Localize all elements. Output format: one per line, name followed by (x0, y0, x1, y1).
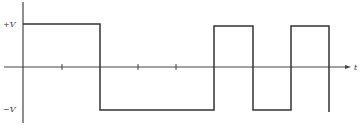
time-axis-arrow-icon (345, 65, 351, 69)
positive-level-label: +V (3, 20, 17, 29)
time-axis-label: t (354, 63, 358, 72)
square-wave-diagram: +V −V t (0, 0, 360, 130)
negative-level-label: −V (3, 105, 17, 114)
